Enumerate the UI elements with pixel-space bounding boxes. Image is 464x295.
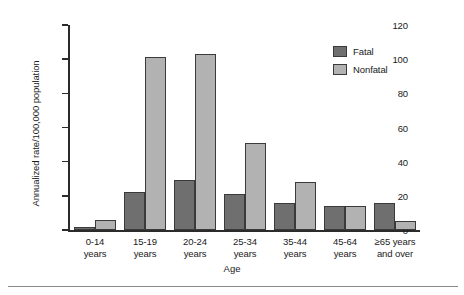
x-tick-label-line: 15-19: [120, 236, 170, 248]
x-tick-label-line: 25-34: [220, 236, 270, 248]
x-tick-label: ≥65 yearsand over: [370, 236, 420, 260]
y-tick: [62, 195, 68, 197]
bar-nonfatal: [245, 143, 266, 230]
x-tick-label: 20-24years: [170, 236, 220, 260]
x-tick-label-line: years: [220, 248, 270, 260]
bar-fatal: [374, 203, 395, 230]
chart-legend: Fatal Nonfatal: [333, 46, 388, 82]
bar-group: [70, 25, 120, 230]
y-tick: [62, 58, 68, 60]
bar-nonfatal: [395, 221, 416, 230]
x-tick-label-line: 35-44: [270, 236, 320, 248]
legend-item-fatal: Fatal: [333, 46, 388, 57]
bar-fatal: [74, 227, 95, 230]
legend-label-fatal: Fatal: [353, 46, 374, 57]
x-axis-tick-labels: 0-14years15-19years20-24years25-34years3…: [70, 236, 420, 260]
legend-swatch-nonfatal: [333, 64, 347, 75]
bar-fatal: [324, 206, 345, 230]
legend-item-nonfatal: Nonfatal: [333, 64, 388, 75]
bar-group: [170, 25, 220, 230]
x-tick-label: 15-19years: [120, 236, 170, 260]
legend-label-nonfatal: Nonfatal: [353, 64, 388, 75]
bar-nonfatal: [195, 54, 216, 230]
bottom-divider: [8, 286, 458, 287]
y-tick: [62, 127, 68, 129]
x-tick-label: 0-14years: [70, 236, 120, 260]
bar-nonfatal: [345, 206, 366, 230]
x-tick-label-line: and over: [370, 248, 420, 260]
bar-nonfatal: [295, 182, 316, 230]
x-tick-label-line: 0-14: [70, 236, 120, 248]
x-axis-title: Age: [0, 263, 464, 274]
y-tick: [62, 93, 68, 95]
bar-group: [120, 25, 170, 230]
bar-fatal: [224, 194, 245, 230]
bar-nonfatal: [145, 57, 166, 230]
x-tick-label-line: ≥65 years: [370, 236, 420, 248]
bar-group: [220, 25, 270, 230]
x-tick-label: 35-44years: [270, 236, 320, 260]
bar-group: [270, 25, 320, 230]
x-tick-label: 25-34years: [220, 236, 270, 260]
chart-figure: Annualized rate/100,000 population 02040…: [0, 0, 464, 295]
y-axis-title: Annualized rate/100,000 population: [30, 29, 41, 239]
y-tick: [62, 161, 68, 163]
y-tick: [62, 229, 68, 231]
x-tick-label-line: 20-24: [170, 236, 220, 248]
bar-fatal: [174, 180, 195, 230]
x-tick-label-line: years: [270, 248, 320, 260]
y-tick: [62, 24, 68, 26]
x-tick-label-line: years: [320, 248, 370, 260]
x-tick-label-line: 45-64: [320, 236, 370, 248]
x-tick-label-line: years: [170, 248, 220, 260]
legend-swatch-fatal: [333, 46, 347, 57]
bar-fatal: [274, 203, 295, 230]
bar-fatal: [124, 192, 145, 230]
x-tick-label-line: years: [70, 248, 120, 260]
x-tick-label-line: years: [120, 248, 170, 260]
bar-nonfatal: [95, 220, 116, 230]
x-tick-label: 45-64years: [320, 236, 370, 260]
